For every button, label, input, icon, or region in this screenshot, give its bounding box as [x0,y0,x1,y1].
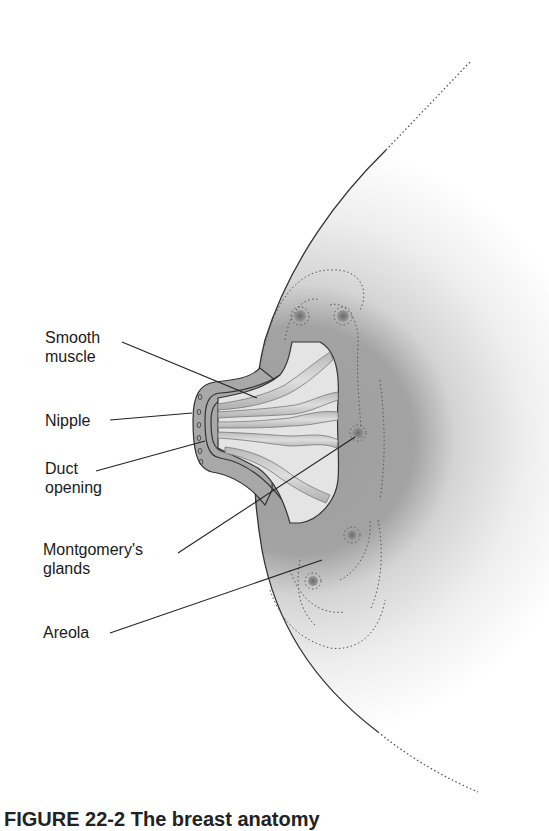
figure-caption: FIGURE 22-2 The breast anatomy [4,808,320,831]
label-smooth-muscle: Smooth muscle [45,328,100,366]
label-nipple: Nipple [45,411,90,430]
label-areola: Areola [43,623,89,642]
label-duct-opening: Duct opening [45,459,102,497]
leader-nipple [110,413,192,420]
leader-duct-opening [96,441,205,471]
leader-smooth-muscle [122,342,257,398]
label-montgomerys-glands: Montgomery's glands [43,540,143,578]
